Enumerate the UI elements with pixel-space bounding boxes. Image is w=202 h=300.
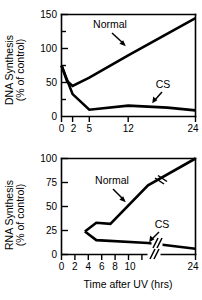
x-axis-title: Time after UV (hrs)	[84, 278, 173, 290]
rna-series-normal-label: Normal	[95, 174, 129, 186]
rna-series-normal-line	[85, 159, 196, 232]
dna-x-tick-label-2: 2	[71, 123, 77, 134]
two-panel-line-chart: DNA Synthesis (% of control) 150 100 50 …	[0, 0, 202, 300]
dna-y-ticks	[62, 15, 69, 100]
rna-y-tick-label-50: 50	[46, 201, 58, 212]
dna-series-normal-label: Normal	[93, 18, 127, 30]
rna-x-tick-label-24: 24	[187, 261, 199, 272]
panel-dna-synthesis: DNA Synthesis (% of control) 150 100 50 …	[3, 9, 199, 134]
dna-x-tick-label-24: 24	[187, 123, 199, 134]
rna-x-tick-label-4: 4	[86, 261, 92, 272]
rna-series-cs-line	[85, 232, 196, 249]
dna-x-tick-label-5: 5	[87, 123, 93, 134]
panel-rna-synthesis: RNA Synthesis (% of control) 100 75 50 2…	[3, 153, 199, 290]
rna-y-axis-title: RNA Synthesis (% of control)	[3, 180, 26, 250]
dna-y-tick-label-150: 150	[40, 9, 57, 20]
dna-y-tick-label-0: 0	[51, 111, 57, 122]
dna-series-cs-line	[62, 66, 196, 111]
dna-x-tick-label-0: 0	[59, 123, 65, 134]
rna-annotation-normal: Normal	[95, 174, 129, 202]
rna-y-tick-label-75: 75	[46, 177, 58, 188]
dna-annotation-cs: CS	[152, 78, 170, 103]
rna-y-tick-label-0: 0	[51, 249, 57, 260]
dna-x-ticks	[62, 117, 196, 123]
dna-y-axis-title-line2: (% of control)	[14, 39, 26, 101]
dna-y-tick-label-50: 50	[46, 77, 58, 88]
rna-y-tick-label-25: 25	[46, 225, 58, 236]
rna-y-axis-title-line2: (% of control)	[14, 184, 26, 246]
rna-y-ticks	[62, 159, 69, 255]
rna-x-tick-label-0: 0	[59, 261, 65, 272]
rna-x-axis-break-mark	[148, 249, 160, 259]
rna-x-tick-label-2: 2	[72, 261, 78, 272]
rna-x-tick-label-10: 10	[124, 261, 136, 272]
dna-y-tick-label-100: 100	[40, 43, 57, 54]
dna-series-cs-label: CS	[156, 78, 171, 90]
dna-x-tick-label-12: 12	[123, 123, 135, 134]
rna-x-ticks	[62, 255, 196, 261]
dna-y-axis-title: DNA Synthesis (% of control)	[3, 35, 26, 105]
figure-container: DNA Synthesis (% of control) 150 100 50 …	[0, 0, 202, 300]
dna-annotation-normal: Normal	[93, 18, 127, 46]
rna-x-tick-label-8: 8	[112, 261, 118, 272]
rna-x-tick-label-6: 6	[99, 261, 105, 272]
dna-series-normal-line	[62, 18, 196, 86]
rna-series-cs-label: CS	[155, 218, 170, 230]
rna-y-tick-label-100: 100	[40, 153, 57, 164]
